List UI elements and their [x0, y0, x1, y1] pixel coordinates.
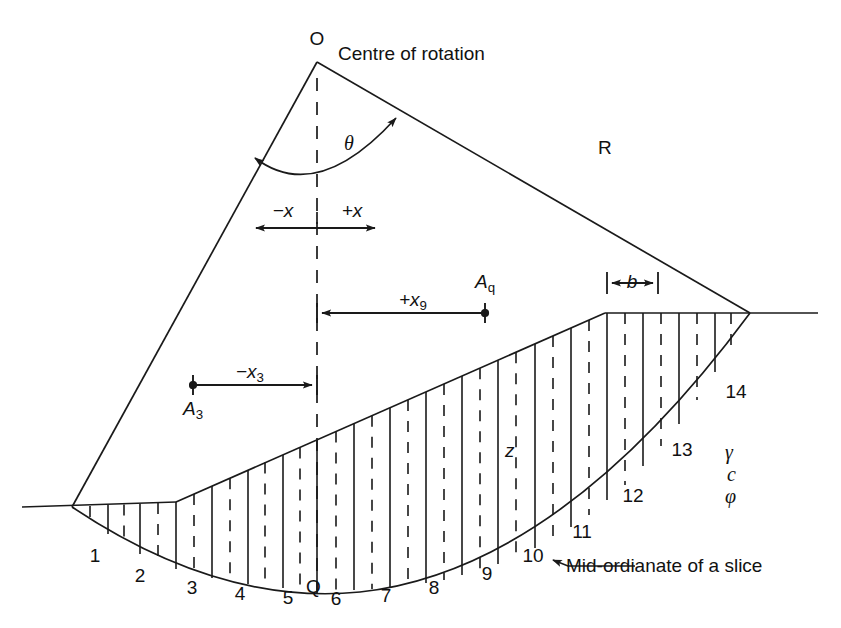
slice-number-6: 6	[331, 589, 342, 608]
slice-number-5: 5	[283, 588, 294, 607]
radius-lines	[72, 62, 750, 507]
area-q-symbol: A	[475, 271, 488, 292]
area-q-label: Aq	[475, 272, 495, 294]
area-3-label: A3	[183, 399, 203, 421]
slice-number-13: 13	[671, 440, 692, 459]
positive-x-label: +x	[342, 201, 363, 220]
slice-number-8: 8	[429, 578, 440, 597]
radius-label: R	[598, 138, 612, 157]
friction-angle-label: φ	[725, 486, 736, 506]
mid-ordinate-caption: Mid-ordianate of a slice	[566, 556, 762, 575]
figure-drawing-canvas	[0, 0, 841, 628]
toe-point-label: Q	[306, 577, 321, 596]
slice-width-label: b	[627, 272, 638, 291]
slice-number-12: 12	[622, 486, 643, 505]
slice-number-3: 3	[187, 578, 198, 597]
centre-of-rotation-caption: Centre of rotation	[338, 44, 485, 63]
slice-number-11: 11	[572, 522, 592, 541]
slice-mid-ordinates	[90, 313, 731, 591]
theta-angle-label: θ	[344, 133, 354, 153]
slice-number-14: 14	[725, 382, 746, 401]
x9-symbol: +x	[399, 289, 420, 310]
slice-number-10: 10	[522, 546, 543, 565]
slice-number-1: 1	[90, 546, 101, 565]
ground-surface-profile	[22, 313, 818, 507]
x3-subscript: 3	[257, 370, 264, 385]
slip-surface-arc	[72, 313, 750, 594]
slice-number-9: 9	[482, 564, 493, 583]
slice-number-7: 7	[381, 586, 392, 605]
centre-of-rotation-point-label: O	[310, 29, 325, 48]
slice-boundaries	[108, 313, 715, 590]
theta-angle-arc	[255, 118, 396, 174]
area-q-subscript: q	[488, 280, 495, 295]
area-3-subscript: 3	[196, 407, 203, 422]
slice-number-4: 4	[235, 584, 246, 603]
area-3-symbol: A	[183, 398, 196, 419]
x3-symbol: −x	[236, 361, 257, 382]
cohesion-label: c	[727, 464, 736, 484]
x9-subscript: 9	[420, 298, 427, 313]
unit-weight-label: γ	[725, 442, 733, 462]
x9-distance-label: +x9	[399, 290, 427, 312]
negative-x-label: −x	[273, 201, 294, 220]
slice-number-2: 2	[135, 566, 146, 585]
mid-ordinate-symbol-label: z	[505, 441, 515, 460]
x3-distance-label: −x3	[236, 362, 264, 384]
slope-stability-figure: O Centre of rotation R θ −x +x +x9 −x3 A…	[0, 0, 841, 628]
